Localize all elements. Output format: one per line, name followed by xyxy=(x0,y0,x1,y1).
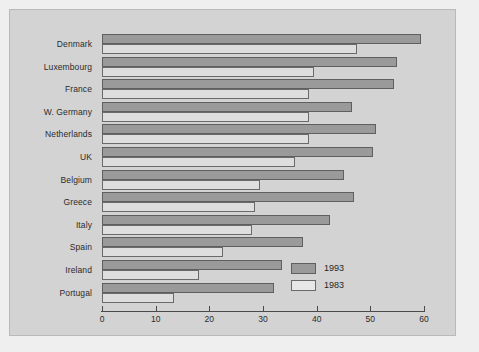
category-label: Luxembourg xyxy=(16,62,92,72)
bar-1993 xyxy=(102,215,330,225)
axis-tick-label: 20 xyxy=(205,314,214,324)
legend-label: 1993 xyxy=(324,263,344,274)
category-label: Portugal xyxy=(16,288,92,298)
category-label: UK xyxy=(16,152,92,162)
bar-1983 xyxy=(102,202,255,212)
category-label: W. Germany xyxy=(16,107,92,117)
category-label: France xyxy=(16,84,92,94)
bar-1983 xyxy=(102,180,260,190)
axis-tick xyxy=(102,306,103,311)
category-label: Belgium xyxy=(16,175,92,185)
chart-screenshot: DenmarkLuxembourgFranceW. GermanyNetherl… xyxy=(0,0,479,352)
category-label: Italy xyxy=(16,220,92,230)
bar-1983 xyxy=(102,134,309,144)
category-axis-labels: DenmarkLuxembourgFranceW. GermanyNetherl… xyxy=(12,10,92,337)
bar-1983 xyxy=(102,293,174,303)
axis-tick-label: 10 xyxy=(151,314,160,324)
bar-1983 xyxy=(102,112,309,122)
axis-tick xyxy=(424,306,425,311)
chart-legend: 19931983 xyxy=(291,262,365,296)
bar-1993 xyxy=(102,170,344,180)
axis-tick-label: 30 xyxy=(258,314,267,324)
axis-tick xyxy=(263,306,264,311)
bar-1983 xyxy=(102,225,252,235)
legend-item: 1983 xyxy=(291,279,365,294)
legend-swatch xyxy=(291,263,316,274)
bar-1993 xyxy=(102,237,303,247)
category-label: Netherlands xyxy=(16,129,92,139)
bar-1993 xyxy=(102,192,354,202)
category-label: Spain xyxy=(16,242,92,252)
bar-1993 xyxy=(102,260,282,270)
bar-1993 xyxy=(102,283,274,293)
legend-label: 1983 xyxy=(324,280,344,291)
bar-1983 xyxy=(102,44,357,54)
legend-swatch xyxy=(291,280,316,291)
bar-1993 xyxy=(102,102,352,112)
bar-1983 xyxy=(102,247,223,257)
chart-panel: DenmarkLuxembourgFranceW. GermanyNetherl… xyxy=(9,9,456,336)
axis-tick xyxy=(209,306,210,311)
bar-1993 xyxy=(102,147,373,157)
bar-1993 xyxy=(102,57,397,67)
plot-area: DenmarkLuxembourgFranceW. GermanyNetherl… xyxy=(10,10,457,337)
axis-tick-label: 60 xyxy=(419,314,428,324)
axis-tick-label: 0 xyxy=(100,314,105,324)
bar-1983 xyxy=(102,89,309,99)
axis-line xyxy=(101,311,425,312)
legend-item: 1993 xyxy=(291,262,365,277)
axis-tick xyxy=(370,306,371,311)
category-label: Greece xyxy=(16,197,92,207)
category-label: Denmark xyxy=(16,39,92,49)
bar-1993 xyxy=(102,124,376,134)
axis-tick xyxy=(317,306,318,311)
bar-1983 xyxy=(102,67,314,77)
bars-area xyxy=(93,10,457,337)
bar-1983 xyxy=(102,270,199,280)
axis-tick-label: 50 xyxy=(366,314,375,324)
category-label: Ireland xyxy=(16,265,92,275)
bar-1993 xyxy=(102,34,421,44)
axis-tick xyxy=(156,306,157,311)
bar-1993 xyxy=(102,79,394,89)
bar-1983 xyxy=(102,157,295,167)
axis-tick-label: 40 xyxy=(312,314,321,324)
